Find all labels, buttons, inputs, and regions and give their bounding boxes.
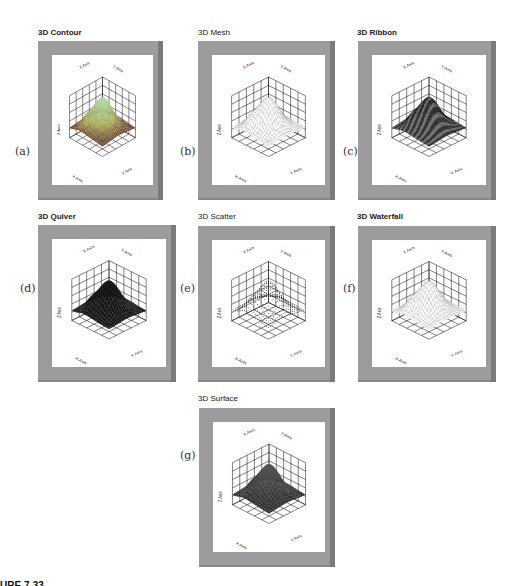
- x-axis-label-bottom: X Axis: [234, 356, 248, 365]
- chart-mesh: X AxisY AxisZ AxisX AxisY Axis: [212, 55, 325, 185]
- x-axis-label: X Axis: [242, 427, 255, 437]
- x-axis-label-bottom: X Axis: [234, 174, 247, 184]
- panel-title-3d-mesh: 3D Mesh: [198, 28, 230, 37]
- plot-area-3d-quiver[interactable]: X AxisY AxisZ AxisX AxisY Axis: [52, 239, 166, 367]
- y-axis-label: Y Axis: [440, 249, 454, 258]
- x-axis-label: X Axis: [402, 245, 416, 254]
- z-axis-label: Z Axis: [56, 124, 61, 135]
- panel-label-c: (c): [343, 145, 358, 158]
- panel-title-3d-surface: 3D Surface: [198, 394, 238, 403]
- graph-frame-3d-mesh: X AxisY AxisZ AxisX AxisY Axis: [198, 41, 335, 200]
- panel-label-e: (e): [180, 282, 195, 295]
- y-axis-label: Y Axis: [280, 431, 293, 441]
- x-axis-label: X Axis: [78, 60, 90, 70]
- panel-title-3d-ribbon: 3D Ribbon: [357, 28, 397, 37]
- z-axis-label: Z Axis: [377, 308, 382, 319]
- chart-contour: X AxisY AxisZ AxisX AxisY Axis: [52, 55, 153, 185]
- x-axis-label-bottom: X Axis: [394, 174, 408, 184]
- chart-waterfall: X AxisY AxisZ AxisX AxisY Axis: [372, 240, 486, 367]
- x-axis-label-bottom: X Axis: [74, 356, 88, 365]
- y-axis-label: Y Axis: [279, 64, 292, 74]
- y-axis-label-bottom: Y Axis: [121, 166, 133, 176]
- plot-area-3d-contour[interactable]: X AxisY AxisZ AxisX AxisY Axis: [52, 55, 153, 185]
- y-axis-label-bottom: Y Axis: [130, 349, 144, 358]
- panel-label-a: (a): [15, 145, 30, 158]
- x-axis-label-bottom: X Axis: [72, 174, 84, 184]
- x-axis-label-bottom: X Axis: [394, 356, 408, 365]
- panel-title-3d-quiver: 3D Quiver: [38, 212, 76, 221]
- y-axis-label: Y Axis: [440, 64, 454, 74]
- graph-frame-3d-surface: X AxisY AxisZ AxisX AxisY Axis: [199, 408, 335, 567]
- panel-label-g: (g): [180, 449, 196, 462]
- z-axis-label: Z Axis: [218, 491, 223, 502]
- plot-area-3d-ribbon[interactable]: X AxisY AxisZ AxisX AxisY Axis: [372, 55, 486, 185]
- x-axis-label: X Axis: [242, 60, 255, 70]
- figure-caption: URE 7-33: [0, 580, 44, 586]
- graph-frame-3d-scatter: X AxisY AxisZ AxisX AxisY Axis: [198, 226, 335, 382]
- y-axis-label: Y Axis: [279, 249, 292, 258]
- y-axis-label: Y Axis: [120, 248, 134, 257]
- z-axis-label: Z Axis: [57, 307, 62, 318]
- z-axis-label: Z Axis: [377, 124, 382, 135]
- plot-area-3d-mesh[interactable]: X AxisY AxisZ AxisX AxisY Axis: [212, 55, 325, 185]
- plot-area-3d-surface[interactable]: X AxisY AxisZ AxisX AxisY Axis: [213, 422, 325, 552]
- panel-label-f: (f): [343, 282, 356, 295]
- z-axis-label: Z Axis: [217, 124, 222, 135]
- y-axis-label: Y Axis: [112, 64, 124, 74]
- graph-frame-3d-ribbon: X AxisY AxisZ AxisX AxisY Axis: [358, 41, 496, 200]
- panel-title-3d-scatter: 3D Scatter: [198, 212, 236, 221]
- x-axis-label: X Axis: [242, 245, 256, 254]
- x-axis-label: X Axis: [402, 60, 416, 70]
- y-axis-label-bottom: Y Axis: [450, 166, 464, 176]
- chart-surface: X AxisY AxisZ AxisX AxisY Axis: [213, 422, 325, 552]
- panel-title-3d-waterfall: 3D Waterfall: [357, 212, 403, 221]
- y-axis-label-bottom: Y Axis: [450, 349, 464, 358]
- chart-ribbon: X AxisY AxisZ AxisX AxisY Axis: [372, 55, 486, 185]
- graph-frame-3d-quiver: X AxisY AxisZ AxisX AxisY Axis: [38, 225, 176, 382]
- plot-area-3d-scatter[interactable]: X AxisY AxisZ AxisX AxisY Axis: [212, 240, 325, 367]
- chart-quiver: X AxisY AxisZ AxisX AxisY Axis: [52, 239, 166, 367]
- y-axis-label-bottom: Y Axis: [289, 166, 302, 176]
- x-axis-label: X Axis: [82, 244, 96, 253]
- panel-label-d: (d): [20, 282, 36, 295]
- graph-frame-3d-contour: X AxisY AxisZ AxisX AxisY Axis: [38, 41, 163, 200]
- panel-label-b: (b): [180, 145, 196, 158]
- graph-frame-3d-waterfall: X AxisY AxisZ AxisX AxisY Axis: [358, 226, 496, 382]
- y-axis-label-bottom: Y Axis: [289, 349, 302, 358]
- x-axis-label-bottom: X Axis: [235, 541, 248, 551]
- panel-title-3d-contour: 3D Contour: [38, 28, 82, 37]
- chart-scatter: X AxisY AxisZ AxisX AxisY Axis: [212, 240, 325, 367]
- z-axis-label: Z Axis: [217, 308, 222, 319]
- plot-area-3d-waterfall[interactable]: X AxisY AxisZ AxisX AxisY Axis: [372, 240, 486, 367]
- y-axis-label-bottom: Y Axis: [289, 533, 302, 543]
